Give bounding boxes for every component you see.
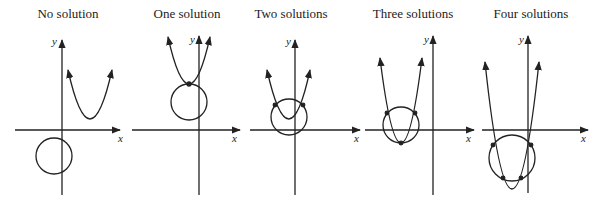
circle [36, 138, 72, 174]
panel-four-solutions [482, 36, 588, 193]
y-axis-label: y [285, 35, 291, 47]
intersection-point [301, 103, 305, 107]
y-axis-label: y [189, 33, 195, 45]
diagram-canvas: x y x y x y x y [0, 0, 605, 205]
panel-no-solution [15, 40, 120, 195]
intersection-point [519, 176, 523, 180]
intersection-point [413, 111, 417, 115]
x-axis-label: x [117, 132, 123, 144]
intersection-point [273, 103, 277, 107]
x-axis-label: x [231, 132, 237, 144]
panel-three-solutions [365, 36, 474, 195]
y-axis-label: y [51, 35, 57, 47]
parabola [168, 37, 210, 84]
intersection-point [187, 82, 191, 86]
intersection-point [529, 143, 533, 147]
intersection-point [501, 176, 505, 180]
parabola [68, 70, 112, 119]
y-axis-label: y [423, 33, 429, 45]
x-axis-label: x [353, 132, 359, 144]
x-axis-label: x [580, 132, 586, 144]
x-axis-label: x [465, 132, 471, 144]
parabola [267, 70, 310, 119]
intersection-point [491, 143, 495, 147]
circle [171, 84, 207, 120]
panel-one-solution [132, 36, 240, 195]
intersection-point [385, 111, 389, 115]
panel-two-solutions [250, 40, 360, 195]
y-axis-label: y [518, 33, 524, 45]
intersection-point [399, 141, 403, 145]
